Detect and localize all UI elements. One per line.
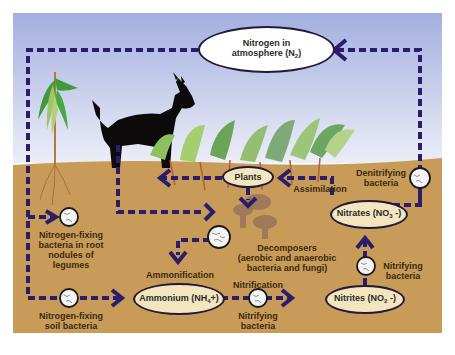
nitrifying-bottom-line1: Nitrifying — [232, 311, 284, 321]
bacteria-icon-root-nodules — [60, 208, 78, 226]
label-assimilation: Assimilation — [292, 184, 348, 194]
node-nitrates-label: Nitrates (NO3 -) — [337, 208, 401, 221]
atm-post: ) — [298, 48, 301, 58]
root-bacteria-line2: bacteria in root — [35, 240, 107, 250]
label-nitrification: Nitrification — [228, 280, 288, 290]
node-plants: Plants — [222, 166, 274, 188]
node-nitrites-label: Nitrites (NO2 -) — [334, 293, 396, 306]
node-nitrogen-atmosphere: Nitrogen in atmosphere (N2) — [198, 26, 335, 73]
label-nitrifying-bacteria-right: Nitrifying bacteria — [378, 261, 428, 281]
label-soil-bacteria: Nitrogen-fixing soil bacteria — [35, 311, 107, 331]
label-decomposers: Decomposers (aerobic and anaerobic bacte… — [232, 243, 342, 273]
nitrifying-bottom-line2: bacteria — [232, 321, 284, 331]
node-ammonium: Ammonium (NH4+) — [133, 283, 225, 315]
nitrates-pre: Nitrates (NO — [337, 208, 390, 218]
node-nitrates: Nitrates (NO3 -) — [330, 200, 408, 229]
atm-pre: atmosphere (N — [232, 48, 295, 58]
bacteria-icon-soil — [60, 289, 78, 307]
denitrifying-line2: bacteria — [350, 178, 412, 188]
node-atmosphere-line2: atmosphere (N2) — [232, 48, 301, 61]
node-nitrites: Nitrites (NO2 -) — [325, 285, 405, 314]
label-nitrifying-bacteria-bottom: Nitrifying bacteria — [232, 311, 284, 331]
decomposers-line2: (aerobic and anaerobic — [232, 253, 342, 263]
label-denitrifying-bacteria: Denitrifying bacteria — [350, 168, 412, 188]
root-bacteria-line1: Nitrogen-fixing — [35, 230, 107, 240]
ammonium-pre: Ammonium (NH — [139, 293, 207, 303]
label-root-nodule-bacteria: Nitrogen-fixing bacteria in root nodules… — [35, 230, 107, 270]
bacteria-icon-decomposers — [208, 226, 230, 248]
root-bacteria-line4: legumes — [35, 260, 107, 270]
label-ammonification: Ammonification — [145, 270, 215, 280]
nitrifying-right-line2: bacteria — [378, 271, 428, 281]
denitrifying-line1: Denitrifying — [350, 168, 412, 178]
bacteria-icon-denitrifying — [410, 168, 430, 188]
bacteria-icon-nitrifying-bottom — [249, 289, 267, 307]
soil-bacteria-line2: soil bacteria — [35, 321, 107, 331]
ammonium-post: +) — [211, 293, 219, 303]
decomposers-line3: bacteria and fungi) — [232, 263, 342, 273]
soil-bacteria-line1: Nitrogen-fixing — [35, 311, 107, 321]
node-atmosphere-line1: Nitrogen in — [243, 38, 291, 48]
node-plants-label: Plants — [234, 172, 261, 182]
bacteria-icon-nitrifying-right — [357, 257, 375, 275]
decomposers-line1: Decomposers — [232, 243, 342, 253]
nitrifying-right-line1: Nitrifying — [378, 261, 428, 271]
node-ammonium-label: Ammonium (NH4+) — [139, 293, 219, 306]
nitrites-pre: Nitrites (NO — [334, 293, 384, 303]
nitrites-post: -) — [387, 293, 396, 303]
nitrates-post: -) — [393, 208, 402, 218]
root-bacteria-line3: nodules of — [35, 250, 107, 260]
